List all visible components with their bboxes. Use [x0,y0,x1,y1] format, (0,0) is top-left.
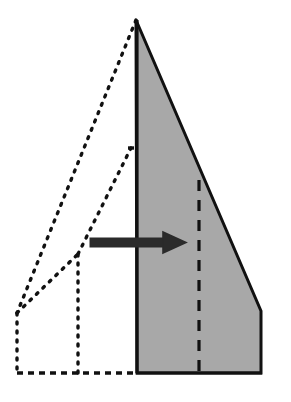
fold-diagram-canvas [0,0,291,402]
arrow-shaft [90,238,166,247]
origami-fold-diagram [0,0,291,402]
